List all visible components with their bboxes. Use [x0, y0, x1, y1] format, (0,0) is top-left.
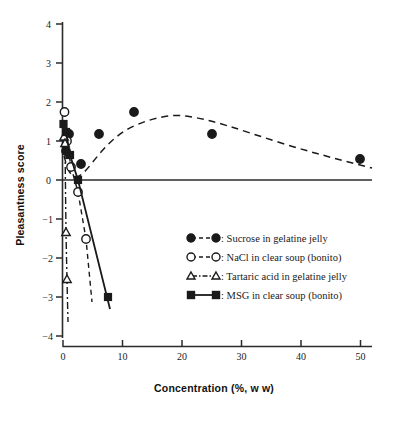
x-tick-label: 0 [61, 351, 66, 362]
y-tick-label: 4 [46, 19, 51, 30]
y-tick-label: −2 [42, 253, 53, 264]
y-axis [56, 22, 63, 338]
data-point [356, 155, 364, 163]
data-point [67, 152, 74, 159]
x-axis-title: Concentration (%, w w) [154, 382, 274, 394]
x-tick-label: 30 [237, 351, 247, 362]
open-circle-icon [212, 253, 220, 261]
y-tick-label: −1 [42, 214, 53, 225]
legend-label: : Sucrose in gelatine jelly [221, 233, 328, 244]
filled-circle-icon [212, 234, 220, 242]
filled-square-icon [213, 292, 220, 299]
x-tick-label: 20 [177, 351, 187, 362]
data-point [95, 130, 103, 138]
x-tick-labels: 0 10 20 30 40 50 [61, 351, 366, 362]
legend-label: : Tartaric acid in gelatine jelly [221, 271, 348, 282]
filled-square-icon [188, 292, 195, 299]
data-point [63, 129, 70, 136]
data-point [130, 108, 138, 116]
x-axis [63, 340, 373, 347]
data-point [60, 108, 68, 116]
data-point [77, 160, 85, 168]
y-tick-label: 3 [46, 58, 51, 69]
data-point [63, 275, 71, 283]
x-tick-label: 50 [356, 351, 366, 362]
chart-svg: 4 3 2 1 0 −1 −2 −3 −4 0 10 20 30 40 50 [0, 0, 415, 421]
data-point [60, 121, 67, 128]
filled-circle-icon [187, 234, 195, 242]
y-tick-label: −4 [42, 331, 53, 342]
y-tick-label: 2 [46, 97, 51, 108]
open-triangle-icon [212, 272, 220, 279]
sucrose-trend-line [64, 115, 372, 176]
y-tick-label: 0 [46, 175, 51, 186]
data-point [208, 130, 216, 138]
legend-label: : NaCl in clear soup (bonito) [221, 252, 342, 264]
legend: : Sucrose in gelatine jelly : NaCl in cl… [187, 233, 348, 302]
legend-label: : MSG in clear soup (bonito) [221, 290, 343, 302]
legend-item-tartaric-acid[interactable]: : Tartaric acid in gelatine jelly [187, 271, 348, 282]
open-triangle-icon [187, 272, 195, 279]
figure-container: 4 3 2 1 0 −1 −2 −3 −4 0 10 20 30 40 50 [0, 0, 415, 421]
y-tick-labels: 4 3 2 1 0 −1 −2 −3 −4 [42, 19, 53, 342]
x-tick-label: 40 [296, 351, 306, 362]
y-tick-label: −3 [42, 292, 53, 303]
open-circle-icon [187, 253, 195, 261]
y-axis-title: Pleasantness score [14, 144, 26, 246]
legend-item-nacl[interactable]: : NaCl in clear soup (bonito) [187, 252, 342, 264]
data-point [75, 177, 82, 184]
figure-caption [8, 409, 408, 421]
legend-item-sucrose[interactable]: : Sucrose in gelatine jelly [187, 233, 328, 244]
y-tick-label: 1 [46, 136, 51, 147]
x-tick-label: 10 [118, 351, 128, 362]
data-point [82, 235, 90, 243]
data-point [105, 294, 112, 301]
series-sucrose [62, 108, 372, 177]
legend-item-msg[interactable]: : MSG in clear soup (bonito) [188, 290, 343, 302]
